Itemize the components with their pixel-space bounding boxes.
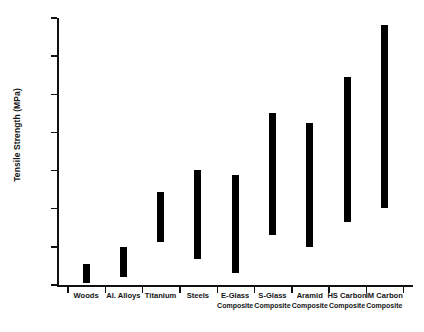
x-axis-label-line1: IM Carbon — [366, 291, 403, 300]
y-axis-tick — [51, 170, 57, 172]
y-axis-tick — [51, 132, 57, 134]
bar-range — [381, 25, 388, 208]
y-axis-tick — [51, 17, 57, 19]
bar-range — [83, 264, 90, 283]
y-axis-tick — [51, 284, 57, 286]
y-axis-tick — [51, 55, 57, 57]
y-axis-line — [57, 18, 59, 286]
bar-range — [232, 175, 239, 272]
x-axis-labels: WoodsAl. AlloysTitaniumSteelsE-GlassComp… — [57, 291, 413, 325]
bar-range — [157, 192, 164, 243]
bar-range — [120, 247, 127, 278]
bar-range — [269, 113, 276, 235]
x-axis-label: IM CarbonComposite — [350, 291, 418, 310]
plot-area — [57, 18, 413, 285]
y-axis-tick — [51, 246, 57, 248]
bar-range — [344, 77, 351, 222]
tensile-strength-chart: Tensile Strength (MPa) 04008001200160020… — [0, 0, 424, 332]
y-axis-tick — [51, 208, 57, 210]
x-axis-line — [57, 285, 413, 287]
y-axis-title: Tensile Strength (MPa) — [12, 55, 22, 215]
bar-range — [194, 170, 201, 260]
bar-range — [306, 123, 313, 247]
x-axis-label-line2: Composite — [350, 301, 418, 311]
y-axis-tick — [51, 94, 57, 96]
